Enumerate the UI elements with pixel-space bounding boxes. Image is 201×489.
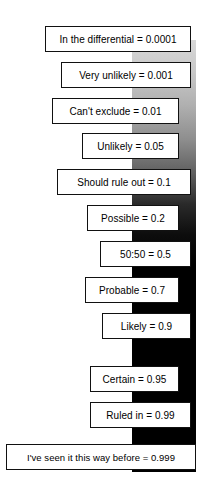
ladder-rung-label: Unlikely = 0.05 [97, 141, 164, 152]
ladder-rung: Can't exclude = 0.01 [52, 98, 179, 124]
ladder-rung: Ruled in = 0.99 [90, 402, 191, 428]
ladder-rung-label: Ruled in = 0.99 [106, 410, 174, 421]
ladder-rung-label: In the differential = 0.0001 [59, 34, 176, 45]
ladder-rung-label: Very unlikely = 0.001 [79, 70, 173, 81]
probability-ladder-figure: In the differential = 0.0001 Very unlike… [0, 0, 201, 489]
ladder-rung-label: Likely = 0.9 [121, 321, 172, 332]
ladder-rung-label: Certain = 0.95 [103, 374, 167, 385]
ladder-rung-label: Possible = 0.2 [101, 213, 165, 224]
ladder-rung: Likely = 0.9 [102, 313, 191, 339]
ladder-rung: Possible = 0.2 [87, 205, 179, 231]
ladder-rung-label: 50:50 = 0.5 [120, 249, 171, 260]
ladder-rung-label: I've seen it this way before = 0.999 [27, 452, 175, 463]
ladder-rung-label: Probable = 0.7 [99, 285, 165, 296]
ladder-rung: Certain = 0.95 [90, 366, 179, 392]
ladder-rung: I've seen it this way before = 0.999 [6, 444, 196, 470]
ladder-rung-label: Can't exclude = 0.01 [69, 106, 161, 117]
ladder-rung: Unlikely = 0.05 [82, 133, 179, 159]
ladder-rung: Should rule out = 0.1 [57, 169, 191, 195]
ladder-rung: Very unlikely = 0.001 [61, 62, 191, 88]
ladder-rung: Probable = 0.7 [85, 277, 179, 303]
ladder-rung: In the differential = 0.0001 [45, 26, 191, 52]
ladder-rung-label: Should rule out = 0.1 [77, 177, 171, 188]
ladder-rung: 50:50 = 0.5 [100, 241, 191, 267]
